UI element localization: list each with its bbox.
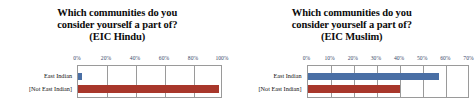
x-tick-label: 40%: [394, 55, 404, 61]
x-tick-label: 100%: [215, 55, 228, 61]
chart-title-line-3: (EIC Muslim): [235, 31, 470, 43]
bar-east-indian: [78, 73, 82, 81]
x-tick-label: 80%: [188, 55, 198, 61]
x-tick-label: 0%: [73, 55, 80, 61]
chart-title-muslim: Which communities do you consider yourse…: [235, 0, 470, 42]
y-axis-categories-muslim: East Indian[Not East Indian]: [235, 65, 305, 100]
chart-eic-muslim: Which communities do you consider yourse…: [235, 0, 470, 106]
x-tick-label: 60%: [159, 55, 169, 61]
x-axis-ticks-hindu: 0%20%40%60%80%100%: [0, 55, 235, 65]
y-category-label: [Not East Indian]: [259, 84, 302, 91]
plot-box-muslim: [307, 65, 469, 98]
x-tick-label: 30%: [371, 55, 381, 61]
gridline: [400, 66, 401, 97]
plot-area-hindu: 0%20%40%60%80%100% East Indian[Not East …: [0, 55, 235, 106]
y-category-label: East Indian: [273, 72, 301, 79]
chart-title-line-1: Which communities do you: [235, 7, 470, 19]
x-tick-label: 20%: [348, 55, 358, 61]
gridline: [446, 66, 447, 97]
chart-title-hindu: Which communities do you consider yourse…: [0, 0, 235, 42]
bar-not-east-indian: [308, 85, 401, 93]
x-tick-label: 60%: [440, 55, 450, 61]
plot-area-muslim: 0%10%20%30%40%50%60%70% East Indian[Not …: [235, 55, 470, 106]
x-tick-label: 10%: [325, 55, 335, 61]
y-category-label: East Indian: [44, 72, 72, 79]
chart-title-line-2: consider yourself a part of?: [235, 19, 470, 31]
x-tick-label: 0%: [303, 55, 310, 61]
x-tick-label: 20%: [101, 55, 111, 61]
x-tick-label: 70%: [463, 55, 473, 61]
chart-title-line-1: Which communities do you: [0, 7, 235, 19]
chart-title-line-2: consider yourself a part of?: [0, 19, 235, 31]
gridline: [423, 66, 424, 97]
y-category-label: [Not East Indian]: [29, 84, 72, 91]
chart-eic-hindu: Which communities do you consider yourse…: [0, 0, 235, 106]
plot-box-hindu: [77, 65, 222, 98]
y-axis-categories-hindu: East Indian[Not East Indian]: [0, 65, 75, 100]
bar-east-indian: [308, 73, 440, 81]
chart-title-line-3: (EIC Hindu): [0, 31, 235, 43]
x-tick-label: 50%: [417, 55, 427, 61]
bar-not-east-indian: [78, 85, 219, 93]
x-axis-ticks-muslim: 0%10%20%30%40%50%60%70%: [235, 55, 470, 65]
x-tick-label: 40%: [130, 55, 140, 61]
